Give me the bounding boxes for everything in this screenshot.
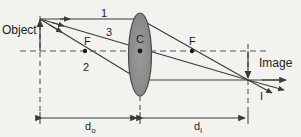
object-distance-label: do bbox=[85, 121, 96, 135]
focal-point-markers bbox=[83, 49, 194, 54]
ray-1 bbox=[40, 19, 272, 93]
ray-2 bbox=[40, 19, 286, 80]
lens-center-dot bbox=[138, 49, 143, 54]
focal-point-right-label: F bbox=[189, 36, 196, 47]
ray-1-label: 1 bbox=[101, 8, 107, 19]
ray-3-label: 3 bbox=[106, 27, 112, 38]
image-distance-subscript: i bbox=[200, 126, 202, 135]
image-point-label: I bbox=[260, 91, 263, 102]
ray-2-label: 2 bbox=[83, 62, 89, 73]
lens-center-label: C bbox=[136, 34, 144, 45]
focal-point-left-dot bbox=[83, 49, 87, 53]
focal-point-left-label: F bbox=[84, 36, 91, 47]
ray-diagram-svg bbox=[0, 0, 301, 137]
focal-point-right-dot bbox=[190, 49, 194, 53]
object-label: Object bbox=[2, 24, 37, 36]
image-distance-label: di bbox=[194, 121, 202, 135]
optics-diagram-canvas: Object Image 1 3 2 F F C I do di bbox=[0, 0, 301, 137]
object-distance-subscript: o bbox=[91, 126, 95, 135]
converging-lens bbox=[129, 13, 152, 96]
image-label: Image bbox=[259, 57, 292, 69]
